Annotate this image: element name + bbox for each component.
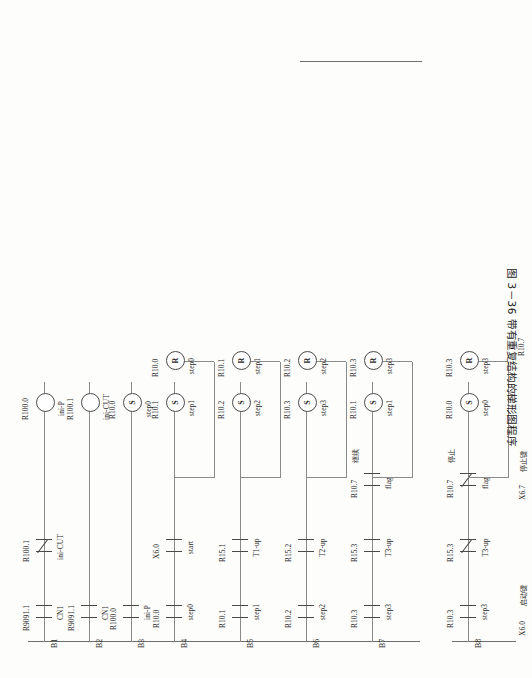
figure-caption: 图 3－36 带有重复结构的梯形图程序 bbox=[502, 0, 528, 678]
figure-caption-text: 图 3－36 带有重复结构的梯形图程序 bbox=[505, 268, 520, 446]
figure-page: B1 R9091.1 CN1 R100.1 ini-CUT R100.0 ini… bbox=[0, 0, 532, 678]
ladder-definitive: B10 R10.2 step2 Y2.5 valve2 B11 R10.3 st… bbox=[0, 0, 532, 678]
